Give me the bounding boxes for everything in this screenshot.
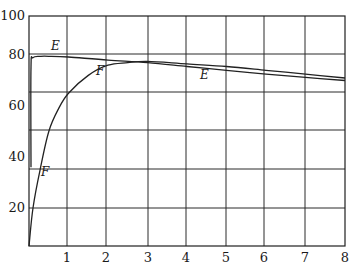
line-chart: 100 80 60 40 20 1 2 3 4 5 6 7 8 E F E F	[0, 0, 356, 266]
curve-label-e-top: E	[50, 39, 60, 53]
x-tick-5: 5	[222, 250, 230, 265]
curve-label-f-low: F	[40, 165, 50, 179]
y-tick-80: 80	[8, 47, 25, 62]
x-axis-labels: 1 2 3 4 5 6 7 8	[63, 250, 349, 265]
y-tick-100: 100	[0, 8, 25, 23]
x-tick-7: 7	[301, 250, 309, 265]
series-f-curve	[29, 61, 345, 246]
grid	[29, 16, 345, 246]
curve-label-e-right: E	[199, 68, 209, 82]
curve-label-f-mid: F	[95, 64, 105, 78]
x-tick-6: 6	[260, 250, 268, 265]
y-tick-20: 20	[8, 200, 25, 215]
x-tick-1: 1	[63, 250, 71, 265]
y-tick-60: 60	[8, 98, 25, 113]
x-tick-3: 3	[144, 250, 152, 265]
x-tick-8: 8	[341, 250, 349, 265]
x-tick-2: 2	[102, 250, 110, 265]
y-axis-labels: 100 80 60 40 20	[0, 8, 25, 215]
y-tick-40: 40	[8, 149, 25, 164]
x-tick-4: 4	[182, 250, 190, 265]
vertical-gridlines	[67, 16, 305, 246]
plot-frame	[29, 16, 345, 246]
